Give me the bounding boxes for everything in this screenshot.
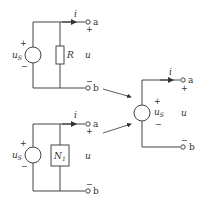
equivalence-arrow-lower-icon [103,124,131,133]
source-minus: − [21,162,28,171]
voltage-source-icon [25,47,41,63]
terminal-b [86,189,90,193]
source-minus: − [21,62,28,71]
current-label: i [74,9,77,19]
terminal-a-label: a [93,17,99,27]
source-minus: − [155,120,162,129]
minus-b: − [181,136,188,145]
terminal-b-label: b [93,83,99,93]
circuit-diagram: + uS − R i a + u − b + uS − N1 i a + u −… [0,0,207,208]
voltage-source-icon [25,147,41,163]
terminal-b [86,86,90,90]
circuit-top: + uS − R i a + u − b [12,9,99,93]
resistor-symbol [56,46,64,64]
source-plus: + [154,97,161,106]
current-label: i [169,67,172,77]
source-label: uS [12,150,22,161]
source-label: uS [154,107,164,118]
voltage-label: u [85,50,91,60]
current-label: i [74,110,77,120]
source-plus: + [20,139,27,148]
plus-a: + [181,84,188,93]
circuit-bottom: + uS − N1 i a + u − b [12,110,99,196]
voltage-label: u [181,108,187,118]
terminal-a [181,78,185,82]
terminal-a-label: a [188,75,194,85]
terminal-b-label: b [189,142,195,152]
terminal-b [181,145,185,149]
terminal-a-label: a [93,119,99,129]
plus-a: + [86,127,93,136]
source-label: uS [12,50,22,61]
equivalence-arrow-upper-icon [103,89,131,97]
minus-b: − [86,77,93,86]
voltage-source-icon [134,105,150,121]
plus-a: + [86,25,93,34]
terminal-a [86,122,90,126]
terminal-b-label: b [93,186,99,196]
terminal-a [86,20,90,24]
minus-b: − [86,180,93,189]
circuit-equivalent: + uS − i a + u − b [134,67,195,152]
source-plus: + [20,39,27,48]
element-label: R [66,50,74,60]
voltage-label: u [85,151,91,161]
